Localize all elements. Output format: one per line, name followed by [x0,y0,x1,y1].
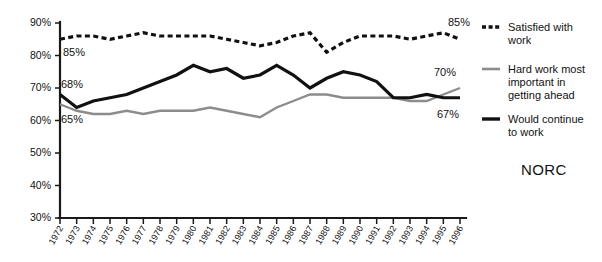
x-tick-label: 1979 [163,224,182,246]
x-tick-label: 1993 [397,224,416,246]
source-attribution: NORC [521,161,567,178]
x-tick-label: 1992 [380,224,399,246]
series-line-2 [60,65,460,107]
line-chart-svg: 90%80%70%60%50%40%30% 197219731974197519… [0,0,602,262]
y-tick-label: 30% [30,211,51,223]
point-value-label: 68% [61,78,83,90]
y-tick-label: 40% [30,179,51,191]
point-value-label: 85% [63,46,85,58]
chart-figure: 90%80%70%60%50%40%30% 197219731974197519… [0,0,602,262]
x-tick-label: 1988 [313,224,332,246]
series-lines [60,33,460,118]
legend-label-0: work [507,34,532,46]
x-tick-label: 1991 [363,224,382,246]
legend-label-0: Satisfied with [508,21,573,33]
x-tick-label: 1978 [147,224,166,246]
y-tick-label: 50% [30,146,51,158]
y-tick-label: 70% [30,81,51,93]
legend-label-1: Hard work most [508,63,585,75]
x-tick-label: 1982 [213,224,232,246]
y-tick-label: 90% [30,16,51,28]
x-tick-label: 1996 [447,224,466,246]
point-value-label: 85% [448,16,470,28]
x-tick-label: 1989 [330,224,349,246]
x-tick-label: 1980 [180,224,199,246]
chart-legend: Satisfied withworkHard work mostimportan… [482,21,585,138]
x-axis: 1972197319741975197619771978197919801981… [47,218,466,246]
x-tick-label: 1974 [80,224,99,246]
series-line-1 [60,88,460,117]
x-tick-label: 1995 [430,224,449,246]
x-tick-label: 1984 [247,224,266,246]
legend-label-1: important in [508,76,565,88]
source-text: NORC [521,161,567,178]
legend-label-2: to work [508,126,544,138]
y-tick-label: 80% [30,49,51,61]
x-tick-label: 1972 [47,224,66,246]
point-value-label: 67% [437,108,459,120]
legend-label-1: getting ahead [508,89,575,101]
x-tick-label: 1981 [197,224,216,246]
x-tick-label: 1987 [297,224,316,246]
x-tick-label: 1973 [63,224,82,246]
y-axis: 90%80%70%60%50%40%30% [30,16,60,223]
point-value-label: 70% [434,66,456,78]
x-tick-label: 1977 [130,224,149,246]
y-tick-label: 60% [30,114,51,126]
x-tick-label: 1976 [113,224,132,246]
x-tick-label: 1986 [280,224,299,246]
x-tick-label: 1985 [263,224,282,246]
series-line-0 [60,33,460,53]
x-tick-label: 1983 [230,224,249,246]
x-tick-label: 1994 [413,224,432,246]
x-tick-label: 1975 [97,224,116,246]
x-tick-label: 1990 [347,224,366,246]
legend-label-2: Would continue [508,113,584,125]
point-value-label: 65% [61,113,83,125]
